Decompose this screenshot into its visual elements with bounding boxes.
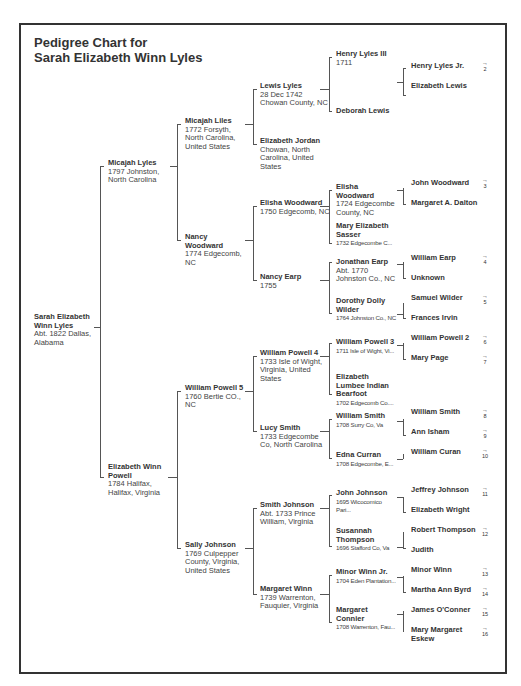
person-gen5[interactable]: William Powell 3 1711 Isle of Wight, Vi.… bbox=[336, 338, 398, 355]
person-father[interactable]: Micajah Lyles 1797 Johnston, North Carol… bbox=[108, 159, 170, 185]
connector bbox=[177, 548, 181, 549]
page-title: Pedigree Chart for Sarah Elizabeth Winn … bbox=[34, 35, 202, 65]
continuation-link[interactable]: →7 bbox=[480, 353, 490, 365]
person-gen5[interactable]: Henry Lyles III 1711 bbox=[336, 50, 416, 67]
continuation-number: 5 bbox=[483, 299, 486, 305]
person-detail: 1732 Edgecombe C... bbox=[336, 239, 398, 248]
person-gen6[interactable]: Samuel Wilder bbox=[411, 294, 481, 303]
person-gen5[interactable]: Elisha Woodward 1724 Edgecombe County, N… bbox=[336, 183, 398, 217]
continuation-link[interactable]: →11 bbox=[480, 485, 490, 497]
person-gen5[interactable]: William Smith 1708 Surry Co, Va bbox=[336, 412, 398, 429]
person-name: William Powell 2 bbox=[411, 334, 481, 343]
continuation-link[interactable]: →9 bbox=[480, 427, 490, 439]
person-gen6[interactable]: Henry Lyles Jr. bbox=[411, 62, 481, 71]
person-gen6[interactable]: Jeffrey Johnson bbox=[411, 486, 481, 495]
continuation-link[interactable]: →13 bbox=[480, 565, 490, 577]
connector bbox=[403, 359, 406, 360]
person-gen5[interactable]: Mary Elizabeth Sasser 1732 Edgecombe C..… bbox=[336, 222, 398, 248]
person-gen6[interactable]: William Powell 2 bbox=[411, 334, 481, 343]
person-name: Martha Ann Byrd bbox=[411, 586, 481, 595]
person-gen5[interactable]: John Johnson 1695 Wicocomico Pari... bbox=[336, 489, 398, 515]
person-gen6[interactable]: Elizabeth Wright bbox=[411, 506, 481, 515]
person-gen6[interactable]: Ann Isham bbox=[411, 428, 481, 437]
person-name: Minor Winn bbox=[411, 566, 481, 575]
person-gen4[interactable]: Lucy Smith 1733 Edgecombe Co, North Caro… bbox=[260, 424, 332, 450]
connector bbox=[403, 343, 404, 360]
person-detail: 28 Dec 1742 Chowan County, NC bbox=[260, 91, 332, 108]
person-gen5[interactable]: Edna Curran 1708 Edgecombe, E... bbox=[336, 451, 398, 468]
connector bbox=[329, 495, 332, 496]
person-gen4[interactable]: Elizabeth Jordan Chowan, North Carolina,… bbox=[260, 137, 332, 171]
person-gen6[interactable]: Minor Winn bbox=[411, 566, 481, 575]
person-root[interactable]: Sarah Elizabeth Winn Lyles Abt. 1822 Dal… bbox=[34, 313, 94, 347]
person-gen6[interactable]: William Curan bbox=[411, 448, 481, 457]
continuation-link[interactable]: →12 bbox=[480, 525, 490, 537]
person-gen3[interactable]: Micajah Liles 1772 Forsyth, North Caroli… bbox=[185, 117, 251, 151]
person-gen4[interactable]: Lewis Lyles 28 Dec 1742 Chowan County, N… bbox=[260, 82, 332, 108]
continuation-number: 11 bbox=[482, 491, 488, 497]
connector bbox=[177, 391, 181, 392]
connector bbox=[403, 532, 404, 549]
person-detail: 1711 Isle of Wight, Vi... bbox=[336, 347, 398, 356]
person-gen3[interactable]: Nancy Woodward 1774 Edgecomb, NC bbox=[185, 233, 247, 267]
person-gen6[interactable]: Mary Page bbox=[411, 354, 481, 363]
continuation-link[interactable]: →2 bbox=[480, 60, 490, 72]
person-gen6[interactable]: William Earp bbox=[411, 254, 481, 263]
continuation-link[interactable]: →5 bbox=[480, 293, 490, 305]
person-gen5[interactable]: Margaret Connier 1708 Warrenton, Fau... bbox=[336, 606, 398, 632]
continuation-link[interactable]: →8 bbox=[480, 407, 490, 419]
continuation-link[interactable]: →15 bbox=[480, 605, 490, 617]
person-name: John Johnson bbox=[336, 489, 398, 498]
person-name: Samuel Wilder bbox=[411, 294, 481, 303]
person-gen6[interactable]: Margaret A. Dalton bbox=[411, 199, 481, 208]
person-gen6[interactable]: Robert Thompson bbox=[411, 526, 481, 535]
person-gen6[interactable]: Mary Margaret Eskew bbox=[411, 626, 467, 643]
connector bbox=[403, 435, 406, 436]
person-gen5[interactable]: Jonathan Earp Abt. 1770 Johnston Co., NC bbox=[336, 258, 398, 284]
person-detail: 1797 Johnston, North Carolina bbox=[108, 168, 170, 185]
person-gen6[interactable]: Martha Ann Byrd bbox=[411, 586, 481, 595]
person-gen4[interactable]: William Powell 4 1733 Isle of Wight, Vir… bbox=[260, 349, 332, 383]
person-gen6[interactable]: William Smith bbox=[411, 408, 481, 417]
connector bbox=[403, 68, 406, 69]
person-mother[interactable]: Elizabeth Winn Powell 1784 Halifax, Hali… bbox=[108, 463, 170, 497]
person-gen6[interactable]: Unknown bbox=[411, 274, 481, 283]
continuation-link[interactable]: →6 bbox=[480, 333, 490, 345]
person-gen5[interactable]: Dorothy Dolly Wilder 1764 Johnston Co., … bbox=[336, 297, 398, 323]
person-gen6[interactable]: John Woodward bbox=[411, 179, 481, 188]
connector bbox=[253, 280, 257, 281]
person-gen4[interactable]: Smith Johnson Abt. 1733 Prince William, … bbox=[260, 501, 332, 527]
person-gen6[interactable]: Judith bbox=[411, 546, 481, 555]
person-detail: 1711 bbox=[336, 59, 416, 68]
person-gen4[interactable]: Elisha Woodward 1750 Edgecomb, NC bbox=[260, 199, 332, 216]
person-gen4[interactable]: Margaret Winn 1739 Warrenton, Fauquier, … bbox=[260, 585, 332, 611]
person-gen4[interactable]: Nancy Earp 1755 bbox=[260, 273, 332, 290]
continuation-link[interactable]: →3 bbox=[480, 177, 490, 189]
person-detail: 1708 Edgecombe, E... bbox=[336, 460, 398, 469]
connector bbox=[403, 548, 406, 549]
title-line-2: Sarah Elizabeth Winn Lyles bbox=[34, 50, 202, 65]
person-gen5[interactable]: Deborah Lewis bbox=[336, 107, 416, 116]
person-gen6[interactable]: James O'Conner bbox=[411, 606, 481, 615]
person-gen5[interactable]: Susannah Thompson 1696 Stafford Co, Va bbox=[336, 527, 398, 553]
person-detail: 1733 Isle of Wight, Virginia, United Sta… bbox=[260, 358, 332, 384]
continuation-link[interactable]: →4 bbox=[480, 253, 490, 265]
connector bbox=[403, 204, 406, 205]
person-gen5[interactable]: Minor Winn Jr. 1704 Eden Plantation... bbox=[336, 568, 398, 585]
connector bbox=[253, 508, 254, 595]
person-name: Judith bbox=[411, 546, 481, 555]
person-gen6[interactable]: Elizabeth Lewis bbox=[411, 82, 481, 91]
continuation-link[interactable]: →14 bbox=[480, 585, 490, 597]
person-gen3[interactable]: William Powell 5 1760 Bertie CO., NC bbox=[185, 384, 247, 410]
continuation-number: 10 bbox=[482, 453, 488, 459]
person-name: Frances Irvin bbox=[411, 314, 481, 323]
person-gen3[interactable]: Sally Johnson 1769 Culpepper County, Vir… bbox=[185, 541, 247, 575]
continuation-number: 15 bbox=[482, 611, 488, 617]
person-gen6[interactable]: Frances Irvin bbox=[411, 314, 481, 323]
continuation-link[interactable]: →16 bbox=[480, 625, 490, 637]
connector bbox=[403, 95, 406, 96]
person-name: William Earp bbox=[411, 254, 481, 263]
continuation-link[interactable]: →10 bbox=[480, 447, 490, 459]
connector bbox=[100, 166, 104, 167]
person-gen5[interactable]: Elizabeth Lumbee Indian Bearfoot 1702 Ed… bbox=[336, 373, 398, 407]
